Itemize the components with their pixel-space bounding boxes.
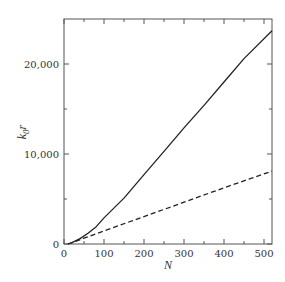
- plot-frame: [64, 19, 272, 244]
- y-axis-title: k0r: [15, 124, 31, 139]
- y-axis-tick-labels: 010,00020,000: [24, 59, 59, 250]
- x-tick-label: 400: [214, 248, 233, 259]
- y-tick-label: 20,000: [24, 59, 59, 70]
- series-dashed: [68, 171, 272, 244]
- x-tick-label: 0: [61, 248, 67, 259]
- x-tick-label: 200: [134, 248, 153, 259]
- x-axis-title: N: [163, 258, 173, 272]
- y-tick-label: 0: [53, 239, 59, 250]
- x-axis-ticks: [64, 19, 264, 244]
- data-series: [68, 31, 272, 244]
- x-tick-label: 500: [254, 248, 273, 259]
- x-tick-label: 100: [94, 248, 113, 259]
- chart: 0100200300400500 010,00020,000 N k0r: [0, 0, 285, 282]
- series-solid: [68, 31, 272, 244]
- x-tick-label: 300: [174, 248, 193, 259]
- y-tick-label: 10,000: [24, 149, 59, 160]
- y-axis-ticks: [64, 64, 272, 244]
